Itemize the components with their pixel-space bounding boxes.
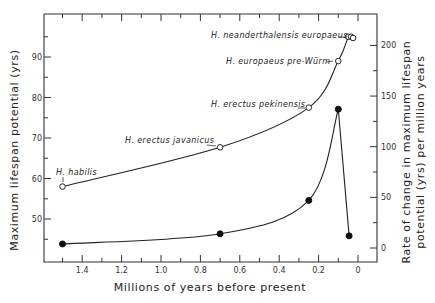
rate-point — [346, 233, 352, 239]
x-axis-title: Millions of years before present — [114, 281, 307, 294]
x-tick-label: 1.0 — [155, 266, 168, 275]
rate-point — [60, 241, 66, 247]
species-label: H. europaeus pre-Würm — [226, 57, 330, 66]
y2-tick-label: 100 — [381, 143, 396, 152]
rate-decline-line — [338, 109, 349, 236]
leader-line — [207, 145, 216, 146]
rate-point — [335, 106, 341, 112]
y-tick-label: 60 — [32, 175, 42, 184]
x-tick-label: 0.8 — [194, 266, 207, 275]
species-label: H. erectus pekinensis — [211, 100, 305, 109]
species-label: H. erectus javanicus — [125, 136, 214, 145]
lifespan-point — [350, 35, 356, 41]
y2-tick-label: 50 — [381, 193, 391, 202]
y2-tick-label: 200 — [381, 41, 396, 50]
y-axis-title: Maximum lifespan potential (yrs) — [8, 49, 21, 250]
lifespan-point — [217, 145, 223, 151]
y-tick-label: 80 — [32, 94, 42, 103]
annotations: H. habilisH. erectus javanicusH. erectus… — [56, 31, 348, 182]
x-tick-label: 1.2 — [115, 266, 128, 275]
x-tick-label: 0.6 — [233, 266, 246, 275]
lifespan-chart: 1.41.21.00.80.60.40.20506070809005010015… — [0, 0, 435, 303]
y-tick-label: 70 — [32, 134, 42, 143]
lifespan-point — [306, 105, 312, 111]
y2-tick-label: 0 — [381, 244, 386, 253]
x-tick-label: 0.2 — [312, 266, 325, 275]
y2-axis-title-line2: potential (yrs) per million years — [414, 55, 427, 248]
rate-point — [217, 231, 223, 237]
y-tick-label: 50 — [32, 215, 42, 224]
rate-point — [306, 197, 312, 203]
x-tick-label: 0.4 — [273, 266, 286, 275]
species-label: H. habilis — [56, 168, 97, 177]
x-tick-label: 1.4 — [76, 266, 89, 275]
y2-tick-label: 150 — [381, 92, 396, 101]
y-tick-label: 90 — [32, 53, 42, 62]
x-tick-label: 0 — [355, 266, 360, 275]
species-label: H. neanderthalensis europaeus — [211, 31, 348, 40]
lifespan-point — [60, 184, 66, 190]
y2-axis-title-line1: Rate of change in maximum lifespan — [400, 41, 413, 264]
lifespan-point — [336, 58, 342, 64]
